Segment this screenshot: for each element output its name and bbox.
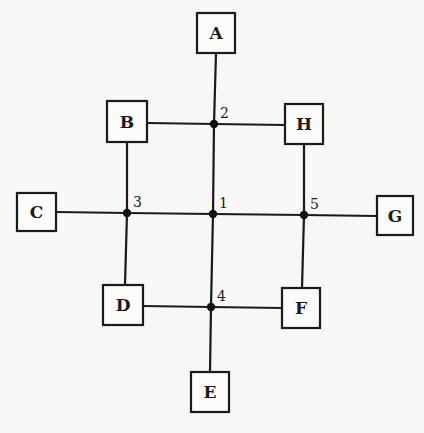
edge-4-f	[211, 307, 282, 308]
box-label: A	[208, 23, 223, 43]
junction-label: 4	[217, 288, 226, 304]
edge-c-3	[56, 212, 127, 213]
edge-3-1	[127, 213, 213, 214]
box-label: H	[296, 114, 312, 134]
edge-b-2	[147, 123, 214, 124]
edge-4-e	[210, 307, 211, 372]
box-f: F	[282, 288, 320, 328]
box-label: D	[116, 295, 131, 315]
edge-5-g	[304, 215, 377, 216]
box-c: C	[17, 193, 56, 231]
edge-1-5	[213, 214, 304, 215]
network-diagram: 12345 ABHCGDFE	[0, 0, 424, 433]
junction-dot	[300, 211, 308, 219]
junction-dot	[210, 120, 218, 128]
edge-1-4	[211, 214, 213, 307]
junction-dot	[123, 209, 131, 217]
junction-dot	[209, 210, 217, 218]
junction-label: 3	[133, 194, 142, 210]
box-label: G	[388, 206, 403, 226]
junction-dot	[207, 303, 215, 311]
box-a: A	[197, 13, 235, 53]
box-b: B	[107, 101, 147, 142]
box-label: F	[295, 298, 307, 318]
junction-label: 1	[219, 195, 228, 211]
box-d: D	[103, 285, 143, 325]
junction-label: 5	[310, 196, 319, 212]
box-h: H	[285, 104, 323, 144]
junction-label: 2	[220, 105, 229, 121]
edge-d-4	[143, 306, 211, 307]
box-e: E	[191, 372, 229, 412]
edge-3-d	[125, 213, 127, 285]
box-g: G	[377, 196, 413, 235]
box-label: C	[30, 202, 44, 222]
edge-2-1	[213, 124, 214, 214]
edge-5-f	[302, 215, 304, 288]
box-label: E	[204, 382, 217, 402]
edge-2-h	[214, 124, 285, 125]
edge-a-2	[214, 53, 216, 124]
box-label: B	[120, 112, 134, 132]
